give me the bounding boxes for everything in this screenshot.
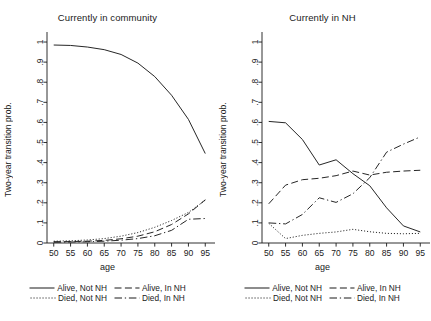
legend-item-alive-not-nh: Alive, Not NH [244, 284, 322, 292]
y-tick-label: .7 [250, 98, 260, 105]
legend-swatch-solid [244, 284, 270, 292]
legend-swatch-dashdot [114, 294, 140, 302]
y-tick-label: .3 [250, 179, 260, 186]
x-tick-label: 85 [167, 248, 177, 258]
legend-label: Died, In NH [357, 294, 400, 302]
plot-area-nursing-home: 0.1.2.3.4.5.6.7.8.9150556065707580859095 [215, 0, 430, 270]
y-tick-label: .4 [250, 159, 260, 166]
x-tick-label: 50 [49, 248, 59, 258]
series-line-alive-in-nh [269, 170, 421, 204]
x-tick-label: 55 [66, 248, 76, 258]
legend-item-died-in-nh: Died, In NH [114, 294, 185, 302]
y-tick-label: .1 [35, 219, 45, 226]
x-tick-label: 90 [184, 248, 194, 258]
legend-item-alive-not-nh: Alive, Not NH [29, 284, 107, 292]
legend-item-alive-in-nh: Alive, In NH [329, 284, 401, 292]
y-tick-label: .4 [35, 159, 45, 166]
x-tick-label: 60 [298, 248, 308, 258]
x-axis-label-right: age [215, 262, 430, 272]
x-axis-label-left: age [0, 262, 215, 272]
x-tick-label: 75 [348, 248, 358, 258]
x-tick-label: 95 [200, 248, 210, 258]
legend-label: Died, Not NH [273, 294, 322, 302]
y-tick-label: .2 [35, 199, 45, 206]
legend-swatch-dashed [329, 284, 355, 292]
legend-label: Died, Not NH [58, 294, 107, 302]
y-tick-label: .2 [250, 199, 260, 206]
figure: Currently in community Two-year transiti… [0, 0, 431, 321]
legend-label: Died, In NH [142, 294, 185, 302]
series-line-died-in-nh [54, 218, 206, 242]
x-tick-label: 85 [382, 248, 392, 258]
y-tick-label: 0 [250, 240, 260, 245]
legend-nursing-home: Alive, Not NHAlive, In NHDied, Not NHDie… [215, 284, 430, 303]
legend-row: Alive, Not NHAlive, In NH [244, 284, 401, 292]
y-tick-label: .8 [35, 78, 45, 85]
y-tick-label: 1 [250, 39, 260, 44]
y-tick-label: 1 [35, 39, 45, 44]
legend-swatch-dashdot [329, 294, 355, 302]
legend-label: Alive, In NH [357, 284, 401, 292]
series-line-alive-not-nh [54, 45, 206, 154]
y-tick-label: .7 [35, 98, 45, 105]
legend-row: Died, Not NHDied, In NH [30, 294, 185, 302]
y-tick-label: .6 [250, 119, 260, 126]
legend-row: Alive, Not NHAlive, In NH [29, 284, 186, 292]
x-tick-label: 70 [116, 248, 126, 258]
series-line-died-in-nh [269, 137, 421, 224]
x-tick-label: 55 [281, 248, 291, 258]
y-tick-label: .9 [35, 58, 45, 65]
y-tick-label: .9 [250, 58, 260, 65]
y-tick-label: .1 [250, 219, 260, 226]
legend-item-died-not-nh: Died, Not NH [30, 294, 107, 302]
legend-swatch-dotted [30, 294, 56, 302]
axis-lines [262, 32, 430, 243]
legend-item-alive-in-nh: Alive, In NH [114, 284, 186, 292]
panel-nursing-home: Currently in NH Two-year transition prob… [215, 0, 430, 321]
panel-community: Currently in community Two-year transiti… [0, 0, 215, 321]
series-line-alive-in-nh [54, 200, 206, 242]
x-tick-label: 80 [150, 248, 160, 258]
legend-community: Alive, Not NHAlive, In NHDied, Not NHDie… [0, 284, 215, 303]
y-tick-label: .3 [35, 179, 45, 186]
legend-label: Alive, Not NH [272, 284, 322, 292]
x-tick-label: 65 [99, 248, 109, 258]
y-tick-label: .5 [35, 139, 45, 146]
legend-swatch-dotted [245, 294, 271, 302]
x-tick-label: 95 [415, 248, 425, 258]
y-tick-label: .5 [250, 139, 260, 146]
legend-swatch-dashed [114, 284, 140, 292]
plot-area-community: 0.1.2.3.4.5.6.7.8.9150556065707580859095 [0, 0, 215, 270]
legend-row: Died, Not NHDied, In NH [245, 294, 400, 302]
series-line-died-not-nh [54, 200, 206, 241]
legend-label: Alive, In NH [142, 284, 186, 292]
x-tick-label: 90 [399, 248, 409, 258]
x-tick-label: 60 [83, 248, 93, 258]
x-tick-label: 80 [365, 248, 375, 258]
x-tick-label: 75 [133, 248, 143, 258]
legend-label: Alive, Not NH [57, 284, 107, 292]
x-tick-label: 65 [314, 248, 324, 258]
legend-swatch-solid [29, 284, 55, 292]
y-tick-label: .8 [250, 78, 260, 85]
y-tick-label: .6 [35, 119, 45, 126]
x-tick-label: 70 [331, 248, 341, 258]
legend-item-died-in-nh: Died, In NH [329, 294, 400, 302]
legend-item-died-not-nh: Died, Not NH [245, 294, 322, 302]
series-line-alive-not-nh [269, 121, 421, 232]
series-line-died-not-nh [269, 223, 421, 238]
y-tick-label: 0 [35, 240, 45, 245]
x-tick-label: 50 [264, 248, 274, 258]
